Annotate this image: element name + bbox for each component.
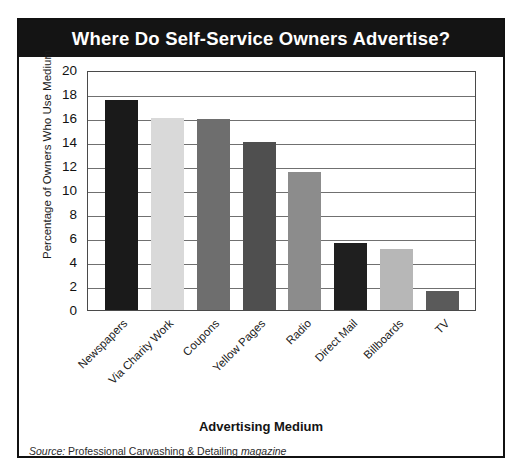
bar[interactable] — [151, 118, 184, 310]
source-suffix: magazine — [241, 445, 287, 457]
y-axis-tick-label: 14 — [62, 136, 77, 150]
bar[interactable] — [197, 119, 230, 310]
x-axis-tick-label: TV — [433, 317, 452, 336]
y-axis-tick-label: 18 — [62, 88, 77, 102]
x-label-slot: TV — [420, 313, 466, 423]
plot-area — [87, 71, 476, 311]
y-axis-tick-label: 6 — [69, 232, 77, 246]
bar-slot — [282, 72, 328, 310]
bar-series — [88, 72, 475, 310]
bar-slot — [374, 72, 420, 310]
y-axis-tick-label: 2 — [69, 280, 77, 294]
chart-body: Percentage of Owners Who Use Medium 2018… — [19, 57, 503, 456]
x-axis-title: Advertising Medium — [19, 419, 503, 434]
source-note: Source: Professional Carwashing & Detail… — [29, 445, 286, 457]
source-body: Professional Carwashing & Detailing — [68, 445, 238, 457]
y-axis-tick-label: 20 — [62, 64, 77, 78]
chart-title-banner: Where Do Self-Service Owners Advertise? — [19, 20, 503, 57]
x-axis-tick-label: Radio — [284, 317, 314, 347]
bar-slot — [145, 72, 191, 310]
bar[interactable] — [105, 100, 138, 310]
chart-figure: Where Do Self-Service Owners Advertise? … — [17, 18, 505, 458]
x-label-slot: Direct Mail — [328, 313, 374, 423]
y-axis-tick-label: 12 — [62, 160, 77, 174]
y-axis-tick-label: 4 — [69, 256, 77, 270]
chart-screenshot: Where Do Self-Service Owners Advertise? … — [0, 0, 521, 475]
bar-slot — [99, 72, 145, 310]
bar-slot — [419, 72, 465, 310]
bar[interactable] — [243, 142, 276, 310]
y-axis-tick-label: 0 — [69, 304, 77, 318]
chart-title: Where Do Self-Service Owners Advertise? — [72, 28, 450, 50]
bar[interactable] — [426, 291, 459, 310]
y-axis-tick-label: 8 — [69, 208, 77, 222]
bar-slot — [328, 72, 374, 310]
x-axis-tick-labels: NewspapersVia Charity WorkCouponsYellow … — [87, 313, 476, 423]
bar[interactable] — [380, 249, 413, 310]
bar[interactable] — [334, 243, 367, 310]
source-prefix: Source: — [29, 445, 65, 457]
bar[interactable] — [288, 172, 321, 310]
x-label-slot: Billboards — [374, 313, 420, 423]
bar-slot — [236, 72, 282, 310]
bar-slot — [191, 72, 237, 310]
x-label-slot: Via Charity Work — [144, 313, 190, 423]
y-axis-tick-labels: 20181614121086420 — [47, 71, 77, 311]
y-axis-tick-label: 10 — [62, 184, 77, 198]
y-axis-tick-label: 16 — [62, 112, 77, 126]
x-label-slot: Yellow Pages — [236, 313, 282, 423]
x-label-slot: Radio — [282, 313, 328, 423]
